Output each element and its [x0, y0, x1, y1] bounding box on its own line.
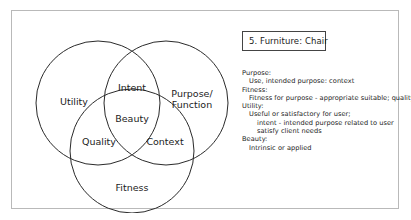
title-text: 5. Furniture: Chair [249, 36, 328, 46]
venn-labels: Utility Intent Purpose/ Function Beauty … [60, 82, 213, 193]
note-line: Use, intended purpose: context [242, 77, 411, 85]
note-line: intent - intended purpose related to use… [242, 119, 411, 127]
venn-diagram: Utility Intent Purpose/ Function Beauty … [26, 33, 236, 213]
note-line: Purpose: [242, 69, 411, 77]
note-line: Intrinsic or applied [242, 144, 411, 152]
venn-label-context: Context [146, 136, 183, 147]
note-line: Useful or satisfactory for user; [242, 110, 411, 118]
note-line: Beauty: [242, 135, 411, 143]
slide-canvas: Utility Intent Purpose/ Function Beauty … [0, 0, 411, 220]
title-box: 5. Furniture: Chair [242, 31, 326, 51]
venn-label-intent: Intent [118, 82, 146, 93]
venn-label-beauty: Beauty [115, 113, 149, 124]
note-line: Utility: [242, 102, 411, 110]
venn-label-purpose-function-line2: Function [172, 99, 212, 110]
note-line: satisfy client needs [242, 127, 411, 135]
note-line: Fitness: [242, 86, 411, 94]
venn-label-utility: Utility [60, 96, 88, 107]
venn-label-fitness: Fitness [116, 182, 149, 193]
venn-label-quality: Quality [82, 136, 116, 147]
venn-label-purpose-function-line1: Purpose/ [171, 88, 213, 99]
notes-block: Purpose: Use, intended purpose: context … [242, 69, 411, 152]
slide-frame: Utility Intent Purpose/ Function Beauty … [11, 10, 399, 209]
note-line: Fitness for purpose - appropriate suitab… [242, 94, 411, 102]
